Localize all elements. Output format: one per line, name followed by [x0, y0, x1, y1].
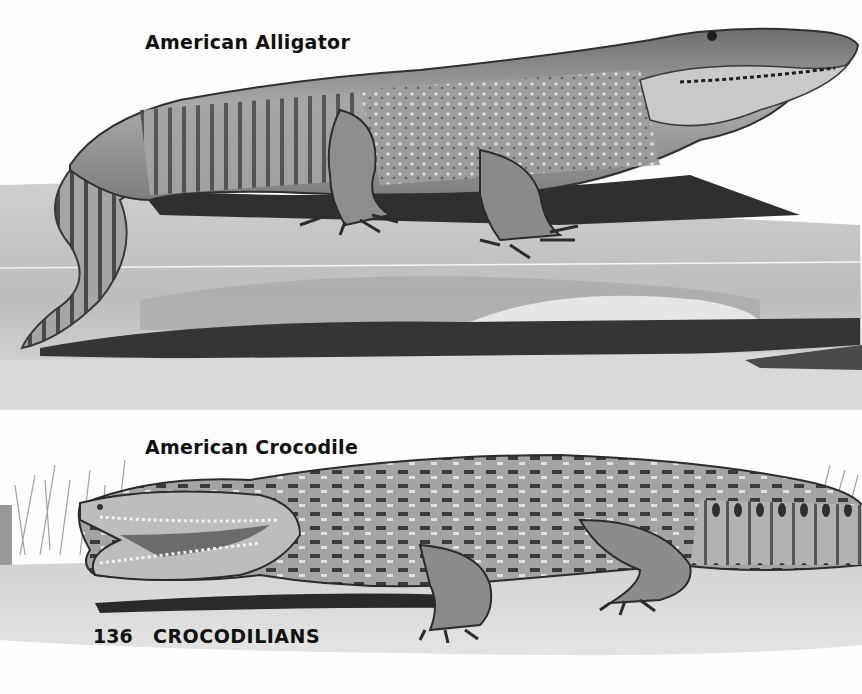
alligator-drawing [0, 0, 862, 410]
page-number: 136 [93, 625, 153, 647]
crocodile-caption: American Crocodile [145, 436, 358, 458]
book-page: American Alligator American Crocodile 13… [0, 0, 862, 694]
alligator-caption: American Alligator [145, 31, 350, 53]
page-footer: 136CROCODILIANS [93, 625, 320, 647]
alligator-illustration [0, 0, 862, 410]
section-title: CROCODILIANS [153, 625, 320, 647]
